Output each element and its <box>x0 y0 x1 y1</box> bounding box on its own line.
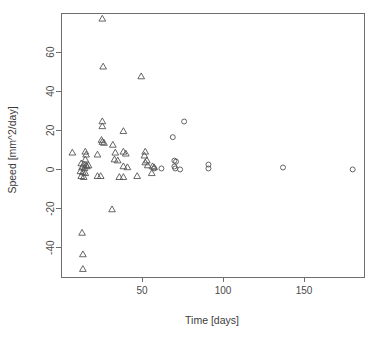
data-points-layer <box>69 15 355 271</box>
data-point-circle <box>174 159 179 164</box>
data-point-circle <box>159 166 164 171</box>
data-point-triangle <box>124 164 131 170</box>
y-tick-label: -20 <box>46 201 57 216</box>
x-axis-title: Time [days] <box>185 314 239 326</box>
data-point-triangle <box>134 173 141 179</box>
data-point-triangle <box>110 141 117 147</box>
data-point-triangle <box>99 15 106 21</box>
y-tick-label: 20 <box>46 124 57 136</box>
data-point-triangle <box>80 266 87 272</box>
x-axis-ticks: 50100150 <box>136 277 312 296</box>
x-tick-label: 100 <box>215 285 232 296</box>
data-point-triangle <box>112 149 119 155</box>
x-tick-label: 150 <box>296 285 313 296</box>
plot-canvas: 6040200-20-40 50100150 Time [days] Speed… <box>0 0 374 337</box>
y-tick-label: -40 <box>46 240 57 255</box>
data-point-circle <box>178 167 183 172</box>
data-point-circle <box>170 135 175 140</box>
y-tick-label: 60 <box>46 46 57 58</box>
series-triangle-group <box>69 15 158 271</box>
series-circle-group <box>152 119 355 172</box>
data-point-circle <box>182 119 187 124</box>
y-tick-label: 40 <box>46 85 57 97</box>
data-point-triangle <box>138 73 145 79</box>
data-point-triangle <box>79 229 86 235</box>
data-point-triangle <box>94 151 101 157</box>
data-point-triangle <box>69 149 76 155</box>
y-axis-title: Speed [mm^2/day] <box>6 106 18 193</box>
x-tick-label: 50 <box>136 285 148 296</box>
data-point-triangle <box>80 251 87 257</box>
data-point-triangle <box>120 163 127 169</box>
y-tick-label: 0 <box>46 166 57 172</box>
data-point-triangle <box>109 206 116 212</box>
data-point-circle <box>280 165 285 170</box>
data-point-circle <box>350 167 355 172</box>
y-axis-ticks: 6040200-20-40 <box>46 46 62 255</box>
data-point-triangle <box>120 128 127 134</box>
scatter-plot-figure: 6040200-20-40 50100150 Time [days] Speed… <box>0 0 374 337</box>
data-point-triangle <box>100 63 107 69</box>
